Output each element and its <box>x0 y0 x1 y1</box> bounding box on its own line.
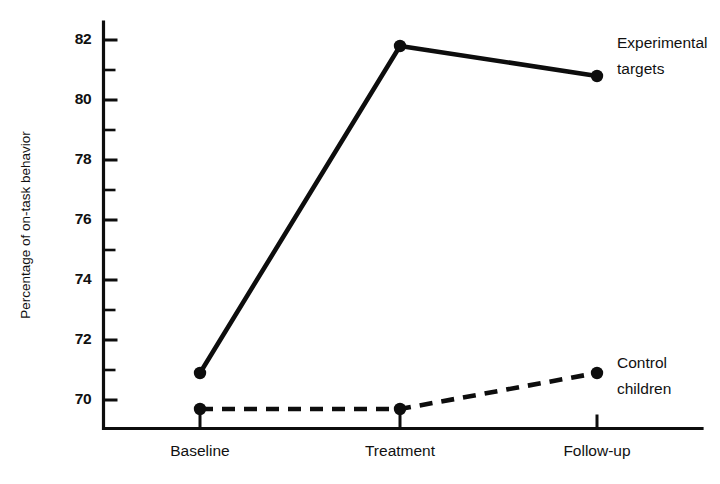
y-axis-tick-labels: 70727476788082 <box>75 30 92 407</box>
series-lines <box>200 46 597 409</box>
series-label-experimental-line1: Experimental <box>617 34 707 51</box>
axis-lines <box>104 22 703 429</box>
x-tick-label: Follow-up <box>563 442 630 459</box>
series-label-experimental-line2: targets <box>617 60 665 77</box>
series-markers <box>194 40 603 415</box>
chart-figure: Percentage of on-task behavior 707274767… <box>0 0 720 484</box>
y-tick-label: 74 <box>75 270 92 287</box>
data-point-marker <box>591 70 603 82</box>
y-tick-label: 76 <box>75 210 92 227</box>
y-axis-title: Percentage of on-task behavior <box>18 131 33 319</box>
series-label-control-line2: children <box>617 380 671 397</box>
y-tick-label: 82 <box>75 30 92 47</box>
series-label-control-line1: Control <box>617 354 667 371</box>
data-point-marker <box>394 403 406 415</box>
data-point-marker <box>394 40 406 52</box>
x-tick-label: Baseline <box>170 442 229 459</box>
y-axis-ticks <box>104 40 118 400</box>
x-tick-label: Treatment <box>365 442 436 459</box>
y-tick-label: 78 <box>75 150 92 167</box>
series-line <box>200 46 597 373</box>
x-axis-tick-labels: BaselineTreatmentFollow-up <box>170 442 630 459</box>
data-point-marker <box>194 367 206 379</box>
y-tick-label: 80 <box>75 90 92 107</box>
x-axis-ticks <box>200 415 597 429</box>
data-point-marker <box>194 403 206 415</box>
y-tick-label: 70 <box>75 390 92 407</box>
line-chart-svg: Percentage of on-task behavior 707274767… <box>0 0 720 484</box>
y-tick-label: 72 <box>75 330 92 347</box>
data-point-marker <box>591 367 603 379</box>
